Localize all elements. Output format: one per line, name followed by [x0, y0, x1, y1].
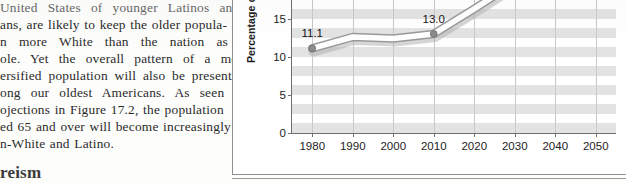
chart-x-tick-label: 2040 — [542, 140, 568, 152]
body-text-line: ed 65 and over will become increasingly — [0, 120, 222, 133]
chart-x-tick-label: 2010 — [421, 140, 447, 152]
chart-x-tick-label: 2030 — [502, 140, 528, 152]
y-axis-title: Percentage over 6 — [245, 0, 257, 82]
chart-y-tick-label: 15 — [273, 13, 286, 25]
chart-x-tick-mark — [596, 133, 597, 137]
figure-container: Percentage over 6 051015 198019902000201… — [232, 0, 626, 175]
chart-x-tick-mark — [474, 133, 475, 137]
chart-x-tick-label: 1990 — [340, 140, 366, 152]
chart-x-tick-mark — [393, 133, 394, 137]
figure-bottom-rule — [232, 178, 626, 179]
body-text-line: United States of younger Latinos and — [0, 1, 222, 14]
body-text-line-text: ans, are likely to keep the older popula… — [0, 18, 222, 31]
body-text-line-text: n-White and Latino. — [0, 137, 222, 150]
chart-point-value-label: 13.0 — [423, 13, 445, 25]
body-text-line: ans, are likely to keep the older popula… — [0, 18, 222, 31]
body-text-line-text: United States of younger Latinos and — [0, 1, 222, 14]
body-text-line-text: ed 65 and over will become increasingly — [0, 120, 222, 133]
body-text-line-text: ole. Yet the overall pattern of a more — [0, 52, 222, 65]
section-heading: reism — [0, 163, 41, 183]
body-text-column: United States of younger Latinos and ans… — [0, 0, 222, 183]
chart-y-tick-label: 0 — [280, 127, 286, 139]
body-text-line: n more White than the nation as a — [0, 35, 222, 48]
chart-plot-area: 051015 19801990200020102020203020402050 … — [291, 0, 616, 134]
body-text-line-text: n more White than the nation as a — [0, 35, 222, 48]
chart-x-tick-mark — [434, 133, 435, 137]
body-text-line-text: ersified population will also be present — [0, 69, 222, 82]
chart-point-value-label: 11.1 — [301, 27, 323, 39]
body-text-line: ong our oldest Americans. As seen in — [0, 86, 222, 99]
body-text-line: n-White and Latino. — [0, 137, 222, 150]
scanned-textbook-page: United States of younger Latinos and ans… — [0, 0, 626, 183]
chart-x-tick-mark — [353, 133, 354, 137]
body-text-line-text: ong our oldest Americans. As seen in — [0, 86, 222, 99]
chart-y-tick-label: 5 — [280, 89, 286, 101]
chart-x-tick-mark — [515, 133, 516, 137]
chart-x-tick-mark — [555, 133, 556, 137]
body-text-line: ole. Yet the overall pattern of a more — [0, 52, 222, 65]
chart-x-tick-label: 2020 — [461, 140, 487, 152]
body-text-line: ersified population will also be present — [0, 69, 222, 82]
figure-inner: Percentage over 6 051015 198019902000201… — [233, 0, 626, 174]
chart-x-tick-mark — [312, 133, 313, 137]
chart-y-tick-mark — [288, 133, 292, 134]
body-text-line-text: ojections in Figure 17.2, the population — [0, 103, 222, 116]
chart-x-tick-label: 1980 — [299, 140, 325, 152]
chart-data-series — [292, 0, 616, 133]
chart-x-tick-label: 2050 — [583, 140, 609, 152]
body-text-line: ojections in Figure 17.2, the population — [0, 103, 222, 116]
chart-y-tick-label: 10 — [273, 51, 286, 63]
chart-x-tick-label: 2000 — [380, 140, 406, 152]
